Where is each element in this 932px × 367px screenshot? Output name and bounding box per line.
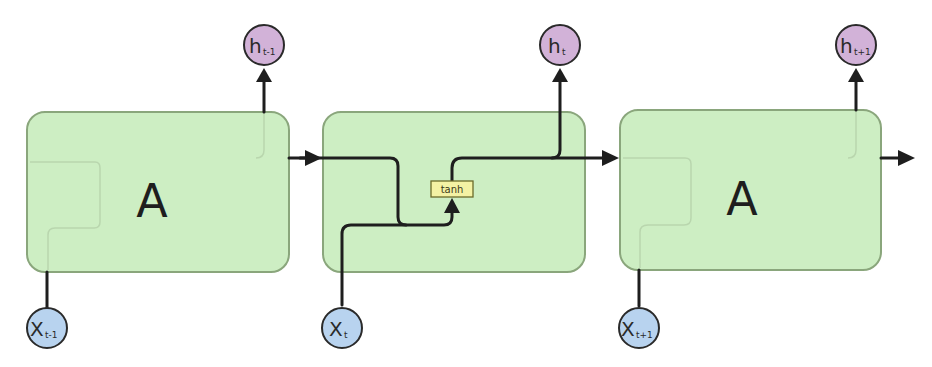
- arrow-right-icon: [602, 150, 619, 166]
- arrow-up-icon: [552, 68, 568, 82]
- svg-text:t+1: t+1: [854, 47, 871, 57]
- input-node-x-next: X t+1: [619, 308, 659, 348]
- output-node-h-next: h t+1: [836, 25, 876, 65]
- rnn-cell-current: tanh: [300, 78, 602, 305]
- rnn-unrolled-diagram: A tanh A: [0, 0, 932, 367]
- arrow-up-icon: [848, 68, 864, 82]
- input-node-x-current: X t: [322, 308, 362, 348]
- svg-text:X: X: [621, 317, 635, 341]
- svg-text:t: t: [344, 330, 348, 340]
- svg-text:h: h: [548, 34, 561, 58]
- svg-text:X: X: [329, 317, 343, 341]
- output-node-h-current: h t: [540, 25, 580, 65]
- rnn-cell-next: A: [620, 110, 881, 270]
- cell-label: A: [136, 174, 168, 228]
- cell-label: A: [726, 172, 758, 226]
- arrow-right-icon: [305, 150, 322, 166]
- output-node-h-prev: h t-1: [244, 25, 284, 65]
- svg-text:t+1: t+1: [636, 330, 653, 340]
- arrow-right-icon: [898, 150, 915, 166]
- svg-text:X: X: [30, 317, 44, 341]
- rnn-cell-previous: A: [27, 112, 289, 272]
- svg-text:h: h: [249, 34, 262, 58]
- arrow-up-icon: [256, 68, 272, 82]
- svg-text:t: t: [562, 47, 566, 57]
- input-node-x-prev: X t-1: [27, 308, 67, 348]
- tanh-label: tanh: [441, 184, 464, 195]
- svg-text:t-1: t-1: [45, 330, 58, 340]
- tanh-activation: tanh: [431, 181, 473, 197]
- svg-text:t-1: t-1: [263, 47, 276, 57]
- svg-text:h: h: [840, 34, 853, 58]
